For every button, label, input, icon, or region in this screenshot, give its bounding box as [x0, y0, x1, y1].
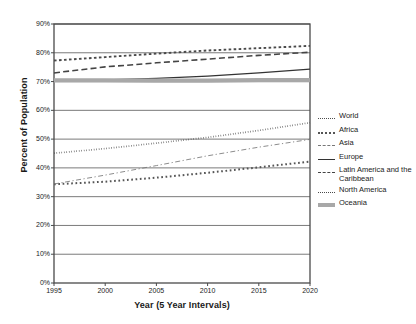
series-line — [54, 80, 310, 81]
legend-label: World — [339, 112, 358, 121]
x-tick-label: 1995 — [34, 287, 74, 294]
series-line — [54, 123, 310, 154]
chart-container: Percent of Population 0%10%20%30%40%50%6… — [0, 0, 416, 324]
series-line — [54, 162, 310, 185]
medium-dotted-swatch — [318, 188, 335, 197]
legend-item-latin-america: Latin America and the Caribbean — [318, 166, 416, 183]
legend-label: Latin America and the Caribbean — [339, 166, 416, 183]
legend-label: North America — [339, 186, 387, 195]
x-tick-label: 2000 — [85, 287, 125, 294]
plot-frame — [54, 24, 310, 283]
chart-legend: World Africa Asia Europe Latin America a… — [318, 112, 416, 213]
fine-dotted-swatch — [318, 114, 335, 123]
legend-item-asia: Asia — [318, 139, 416, 150]
legend-item-oceania: Oceania — [318, 199, 416, 210]
legend-item-africa: Africa — [318, 126, 416, 137]
x-tick-label: 2010 — [188, 287, 228, 294]
legend-label: Asia — [339, 139, 354, 148]
series-line — [54, 139, 310, 184]
legend-item-north-america: North America — [318, 186, 416, 197]
x-tick-label: 2005 — [136, 287, 176, 294]
long-dashed-swatch — [318, 168, 335, 177]
x-tick-label: 2015 — [239, 287, 279, 294]
x-axis-title: Year (5 Year Intervals) — [54, 300, 310, 310]
legend-label: Europe — [339, 153, 363, 162]
dash-dot-swatch — [318, 141, 335, 150]
legend-item-world: World — [318, 112, 416, 123]
square-dotted-swatch — [318, 128, 335, 137]
legend-label: Oceania — [339, 199, 367, 208]
legend-label: Africa — [339, 126, 358, 135]
x-tick-label: 2020 — [290, 287, 330, 294]
thick-band-swatch — [318, 201, 335, 210]
series-line — [54, 52, 310, 73]
solid-swatch — [318, 155, 335, 164]
legend-item-europe: Europe — [318, 153, 416, 164]
